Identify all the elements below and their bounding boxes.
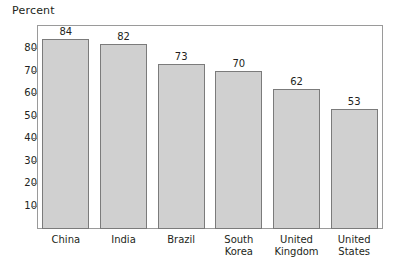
bar-value-label: 84: [36, 26, 96, 37]
bar-value-label: 62: [267, 76, 327, 87]
bar: [158, 64, 205, 229]
bar-chart: Percent 1020304050607080 84China82India7…: [0, 0, 396, 258]
bar: [331, 109, 378, 229]
bar: [42, 39, 89, 229]
category-label: United States: [318, 234, 390, 257]
bar: [273, 89, 320, 229]
bar-value-label: 82: [94, 31, 154, 42]
bars-layer: 84China82India73Brazil70South Korea62Uni…: [0, 0, 396, 258]
bar: [215, 71, 262, 229]
bar-value-label: 73: [151, 51, 211, 62]
bar: [100, 44, 147, 229]
bar-value-label: 53: [324, 96, 384, 107]
bar-value-label: 70: [209, 58, 269, 69]
